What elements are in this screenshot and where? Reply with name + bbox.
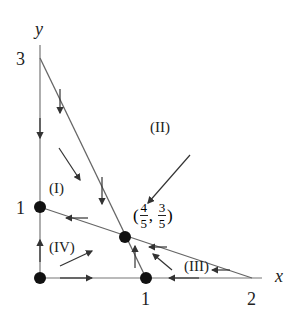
phase-plane-diagram [0, 0, 306, 331]
y-denominator: 5 [159, 217, 166, 230]
y-axis-label: y [35, 20, 43, 38]
equilibrium-interior [119, 231, 131, 243]
equilibrium-x1 [140, 272, 152, 284]
x-numerator: 4 [140, 201, 147, 214]
y-tick-3: 3 [16, 50, 25, 68]
y-numerator: 3 [159, 201, 166, 214]
region-label-iii: (III) [184, 259, 209, 274]
arrow-icon [59, 148, 80, 180]
y-tick-1: 1 [16, 199, 25, 217]
paren-open: ( [133, 206, 139, 226]
x-tick-1: 1 [141, 290, 150, 308]
region-label-iv: (IV) [49, 240, 75, 255]
equilibrium-origin [34, 272, 46, 284]
x-tick-2: 2 [247, 290, 256, 308]
equilibrium-coordinate-label: ( 4 5 , 3 5 ) [133, 201, 173, 230]
fraction-x: 4 5 [140, 201, 148, 230]
arrow-icon [148, 155, 190, 203]
region-label-i: (I) [49, 181, 64, 196]
x-denominator: 5 [140, 217, 147, 230]
fraction-y: 3 5 [158, 201, 166, 230]
arrow-icon [153, 254, 172, 270]
region-label-ii: (II) [150, 120, 170, 135]
paren-close: ) [167, 206, 173, 226]
comma: , [149, 206, 153, 226]
x-axis-label: x [275, 267, 283, 285]
equilibrium-y1 [34, 201, 46, 213]
